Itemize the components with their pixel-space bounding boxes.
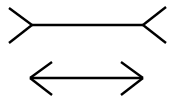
muller-lyer-diagram — [0, 0, 174, 112]
background — [0, 0, 174, 112]
